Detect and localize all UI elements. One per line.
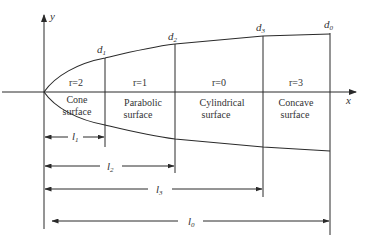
diameter-label-d1: d1: [97, 43, 106, 57]
surface-label-concave-line2: surface: [281, 109, 310, 120]
r-label-cylindrical: r=0: [212, 77, 226, 88]
length-label-l0: l0: [188, 215, 195, 229]
upper-profile-curve: [44, 34, 330, 92]
x-axis-label: x: [345, 94, 351, 106]
r-label-concave: r=3: [289, 77, 303, 88]
surface-label-cylindrical-line1: Cylindrical: [200, 97, 245, 108]
nozzle-profile-diagram: y x d1 d2 d3 d0 r=2 r=1 r=0 r=3 Cone sur…: [0, 0, 368, 248]
diameter-label-d0: d0: [324, 18, 334, 32]
surface-label-cone-line2: surface: [63, 106, 92, 117]
surface-label-parabolic-line1: Parabolic: [124, 97, 162, 108]
surface-label-concave-line1: Concave: [279, 97, 315, 108]
r-label-cone: r=2: [69, 77, 83, 88]
r-label-parabolic: r=1: [133, 77, 147, 88]
length-label-l2: l2: [107, 160, 114, 174]
surface-label-parabolic-line2: surface: [124, 109, 153, 120]
diameter-label-d3: d3: [256, 21, 266, 35]
length-label-l1: l1: [72, 130, 79, 144]
surface-label-cone-line1: Cone: [66, 94, 88, 105]
length-label-l3: l3: [156, 183, 163, 197]
y-axis-label: y: [49, 10, 55, 22]
surface-label-cylindrical-line2: surface: [202, 109, 231, 120]
diameter-label-d2: d2: [168, 30, 178, 44]
